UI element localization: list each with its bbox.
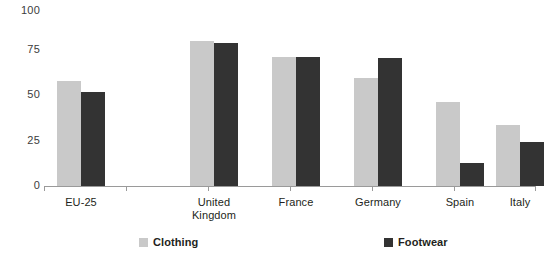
bar-clothing-germany xyxy=(354,78,378,187)
y-tick-25: 25 xyxy=(2,135,40,146)
category-label-italy: Italy xyxy=(480,196,544,209)
y-axis-labels: 100 75 50 25 0 xyxy=(0,0,40,263)
bar-clothing-spain xyxy=(436,102,460,186)
plot-area xyxy=(44,11,536,186)
bar-chart: 100 75 50 25 0 xyxy=(0,0,544,263)
bar-footwear-italy xyxy=(520,142,544,186)
y-tick-0: 0 xyxy=(2,180,40,191)
category-label-eu-25: EU-25 xyxy=(41,196,121,209)
legend-label-clothing: Clothing xyxy=(153,236,198,248)
legend-item-clothing: Clothing xyxy=(139,236,198,248)
category-label-united-kingdom: United Kingdom xyxy=(174,196,254,222)
bar-clothing-france xyxy=(272,57,296,187)
category-label-line2: Kingdom xyxy=(174,209,254,222)
x-tick-3 xyxy=(290,186,291,191)
bar-footwear-eu-25 xyxy=(81,92,105,187)
x-tick-1 xyxy=(126,186,127,191)
x-tick-6 xyxy=(535,186,536,191)
legend-item-footwear: Footwear xyxy=(384,236,448,248)
category-label-line1: France xyxy=(256,196,336,209)
category-label-france: France xyxy=(256,196,336,209)
bar-footwear-france xyxy=(296,57,320,187)
bar-footwear-spain xyxy=(460,163,484,186)
legend-label-footwear: Footwear xyxy=(398,236,448,248)
bar-footwear-united-kingdom xyxy=(214,43,238,187)
category-label-line1: EU-25 xyxy=(41,196,121,209)
category-label-line1: Germany xyxy=(338,196,418,209)
x-tick-2 xyxy=(208,186,209,191)
category-label-line1: Italy xyxy=(480,196,544,209)
x-tick-4 xyxy=(372,186,373,191)
bar-clothing-italy xyxy=(496,125,520,186)
legend-swatch-clothing xyxy=(139,238,148,247)
bar-footwear-germany xyxy=(378,58,402,186)
bar-clothing-eu-25 xyxy=(57,81,81,186)
bar-clothing-united-kingdom xyxy=(190,41,214,186)
x-tick-5 xyxy=(454,186,455,191)
category-label-germany: Germany xyxy=(338,196,418,209)
y-tick-75: 75 xyxy=(2,44,40,55)
x-tick-0 xyxy=(44,186,45,191)
legend-swatch-footwear xyxy=(384,238,393,247)
chart-legend: Clothing Footwear xyxy=(0,236,544,252)
category-label-line1: United xyxy=(174,196,254,209)
y-tick-100: 100 xyxy=(2,5,40,16)
y-tick-50: 50 xyxy=(2,89,40,100)
